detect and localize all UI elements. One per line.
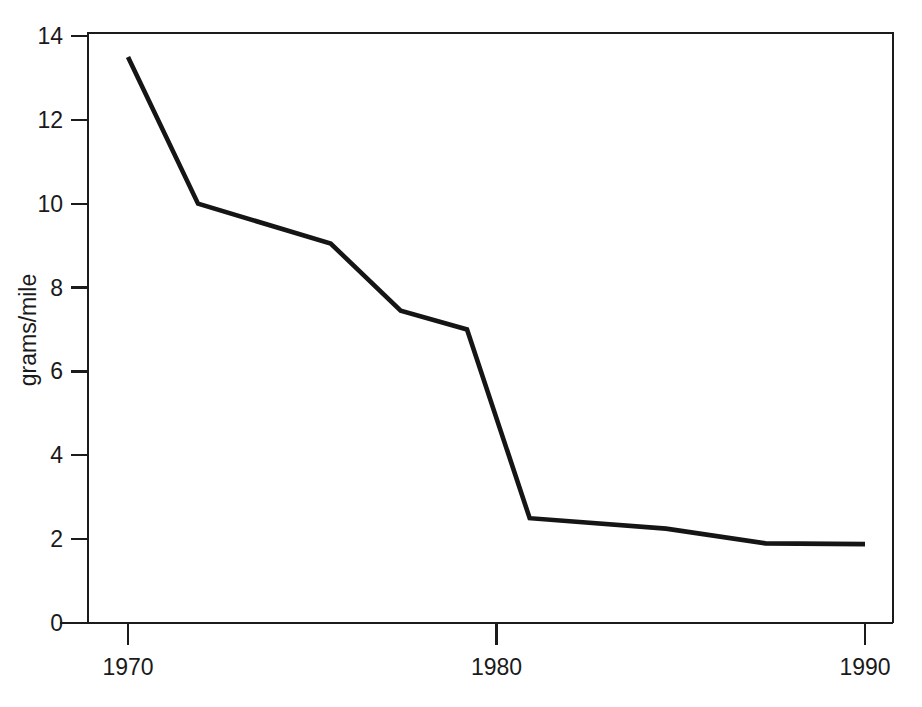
y-axis-ticks <box>71 36 88 623</box>
y-tick-label: 6 <box>50 358 63 384</box>
series-group <box>128 57 865 544</box>
y-tick-label: 4 <box>50 442 63 468</box>
y-tick-label: 8 <box>50 275 63 301</box>
x-tick-label: 1980 <box>471 654 522 680</box>
chart-canvas: 02468101214 197019801990 grams/mile <box>0 0 922 707</box>
y-tick-label: 14 <box>37 23 63 49</box>
x-axis-ticks <box>128 623 865 645</box>
x-axis-tick-labels: 197019801990 <box>102 654 890 680</box>
plot-frame <box>60 33 893 623</box>
data-line-grams-per-mile <box>128 57 865 544</box>
plot-border <box>88 33 893 623</box>
y-tick-label: 0 <box>50 610 63 636</box>
y-axis-title: grams/mile <box>15 274 41 386</box>
x-tick-label: 1970 <box>102 654 153 680</box>
y-tick-label: 12 <box>37 107 63 133</box>
y-axis-tick-labels: 02468101214 <box>37 23 63 636</box>
y-tick-label: 2 <box>50 526 63 552</box>
line-chart: 02468101214 197019801990 grams/mile <box>0 0 922 707</box>
y-tick-label: 10 <box>37 191 63 217</box>
x-tick-label: 1990 <box>839 654 890 680</box>
